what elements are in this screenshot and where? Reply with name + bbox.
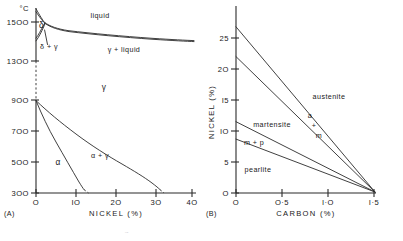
figure-caption-strip: Fig. 11.1 The effect of nickel [0,232,403,241]
panel-b-annotation-m: m [316,131,322,140]
panel-b-y-tick-label-10: IO [220,127,229,136]
panel-a-y-tick-label-500: 5OO [11,158,29,167]
panel-b-y-ticks [231,38,239,193]
figure-container: °C 15OO 13OO 9OO 7OO 5OO 3OO O IO 2O 3O … [0,0,403,241]
panel-a-x-tick-label-0: O [33,198,39,207]
panel-a-y-tick-label-900: 9OO [11,96,29,105]
panel-b-annotation-m-plus-p: m + p [244,138,264,147]
panel-a-y-tick-label-300: 3OO [11,189,29,198]
panel-a-letter: (A) [4,209,15,218]
chart-panel-a: °C 15OO 13OO 9OO 7OO 5OO 3OO O IO 2O 3O … [0,0,200,232]
panel-a-annotation-liquid: liquid [90,11,109,20]
panel-b-y-axis-title: NICKEL (%) [207,85,216,139]
panel-b-letter: (B) [206,209,217,218]
panel-b-annotation-plus: + [312,121,317,130]
panel-b-x-tick-label-0p5: O·5 [275,198,289,207]
panel-b-x-axis-title: CARBON (%) [276,209,335,218]
panel-a-y-tick-label-1500: 15OO [7,18,29,27]
panel-b-x-tick-label-1p5: I·5 [369,198,379,207]
panel-a-annotation-alpha-plus-gamma: α + γ [91,151,109,160]
panel-a-annotation-gamma: γ [102,82,107,92]
panel-a-y-axis-unit-label: °C [19,4,29,13]
panel-a-annotation-gamma-plus-liquid: γ + liquid [108,45,141,54]
panel-b-annotation-martensite: martensite [253,120,291,129]
panel-b-annotation-a: a [308,111,312,120]
panel-a-x-tick-label-10: IO [71,198,80,207]
panel-b-annotation-austenite: austenite [313,92,346,101]
panel-a-annotation-delta-plus-gamma: δ + γ [40,42,58,51]
panel-a-y-ticks [31,22,39,193]
panel-a-liquidus-curve [36,9,194,41]
panel-a-x-tick-label-40: 4O [186,198,197,207]
panel-b-y-tick-label-25: 25 [220,34,229,43]
panel-b-x-tick-label-0: O [233,198,239,207]
panel-a-annotation-alpha: α [55,157,60,167]
panel-a-y-tick-label-700: 7OO [11,127,29,136]
panel-a-alpha-solvus-curve [36,101,84,190]
panel-b-y-tick-label-20: 2O [218,65,229,74]
panel-b-y-tick-label-0: O [223,189,229,198]
panel-b-y-tick-label-15: I5 [222,96,229,105]
panel-b-x-tick-label-1p0: I·O [322,198,334,207]
figure-caption: Fig. 11.1 The effect of nickel [118,232,211,234]
panel-a-x-axis-title: NICKEL (%) [89,209,143,218]
panel-a-annotation-delta: δ [39,20,44,30]
panel-a-y-tick-label-1300: 13OO [7,57,29,66]
panel-b-annotation-pearlite: pearlite [245,165,272,174]
panel-a-x-tick-label-30: 3O [150,198,161,207]
panel-a-solidus-curve [36,12,194,42]
panel-b-martensite-boundary [236,122,375,192]
chart-panel-b: O 5 IO I5 2O 25 NICKEL (%) O O·5 I·O I·5… [200,0,403,232]
panel-a-x-tick-label-20: 2O [110,198,121,207]
panel-a-gamma-solvus-curve [36,101,160,190]
panel-b-y-tick-label-5: 5 [224,158,229,167]
